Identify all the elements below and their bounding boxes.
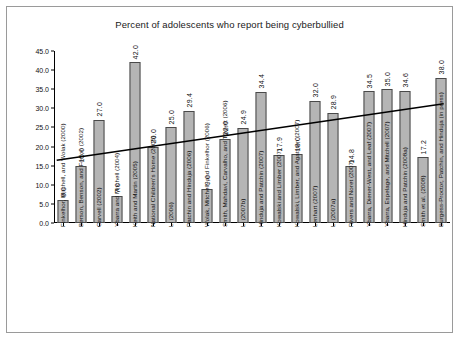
- bar-slot: 28.9: [324, 51, 342, 223]
- bar-value-label: 28.9: [330, 95, 337, 109]
- category-slot: Lenhart (2007): [306, 227, 324, 339]
- category-slot: Li (2007a): [324, 227, 342, 339]
- bar-slot: 25.0: [162, 51, 180, 223]
- category-slot: Hinduja and Patchin (2008a): [396, 227, 414, 339]
- x-axis-category-labels: Finkelhor, Mitchell, and Wolak (2000)Ber…: [54, 227, 450, 339]
- category-label: Hinduja and Patchin (2008a): [401, 147, 408, 227]
- category-slot: Patchin and Hinduja (2006): [180, 227, 198, 339]
- category-label: Carvell (2002): [95, 187, 102, 227]
- category-slot: Kowalski and Limber (2007): [270, 227, 288, 339]
- category-slot: Smith et al. (2008): [414, 227, 432, 339]
- category-label: Smith et al. (2008): [419, 175, 426, 227]
- bar-value-label: 34.4: [258, 74, 265, 88]
- category-slot: Carvell (2002): [90, 227, 108, 339]
- category-slot: Burgess-Proctor, Patchin, and Hinduja (i…: [432, 227, 450, 339]
- category-label: Smith, Mahdavi, Carvalho, and Tippett (2…: [221, 100, 228, 227]
- category-slot: Rivers and Noret (2007): [342, 227, 360, 339]
- category-slot: Li (2007b): [234, 227, 252, 339]
- category-slot: Ybarra, Espelage, and Mitchell (2007): [378, 227, 396, 339]
- category-label: Rivers and Noret (2007): [347, 160, 354, 227]
- category-label: Keith and Martin (2005): [131, 161, 138, 227]
- category-label: Hinduja and Patchin (2007): [257, 151, 264, 227]
- category-label: Li (2006): [167, 202, 174, 227]
- category-slot: National Children's Home (2005): [144, 227, 162, 339]
- category-label: Li (2007b): [239, 199, 246, 227]
- category-label: Kowalski and Limber (2007): [275, 149, 282, 227]
- bar-value-label: 29.4: [186, 93, 193, 107]
- category-slot: Ybarra, Diener-West, and Leaf (2007): [360, 227, 378, 339]
- bar-value-label: 25.0: [168, 110, 175, 124]
- category-slot: Wolak, Mitchell, and Finkelhor (2006): [198, 227, 216, 339]
- bar-value-label: 34.5: [366, 74, 373, 88]
- category-slot: Berson, Benson, and Ferron (2002): [72, 227, 90, 339]
- bar-value-label: 35.0: [384, 72, 391, 86]
- bar-value-label: 38.0: [438, 60, 445, 74]
- bar-slot: 24.9: [234, 51, 252, 223]
- category-label: Li (2007a): [329, 199, 336, 227]
- category-label: Lenhart (2007): [311, 186, 318, 227]
- bar-value-label: 17.2: [420, 140, 427, 154]
- category-label: Ybarra and Mitchell (2004): [113, 153, 120, 227]
- category-slot: Keith and Martin (2005): [126, 227, 144, 339]
- category-label: Kowalski, Limber, and Agatston (2007): [293, 120, 300, 227]
- category-slot: Kowalski, Limber, and Agatston (2007): [288, 227, 306, 339]
- bar-value-label: 42.0: [132, 45, 139, 59]
- bar-value-label: 34.6: [402, 73, 409, 87]
- category-label: Berson, Benson, and Ferron (2002): [77, 128, 84, 227]
- category-slot: Li (2006): [162, 227, 180, 339]
- bar-value-label: 32.0: [312, 83, 319, 97]
- category-slot: Ybarra and Mitchell (2004): [108, 227, 126, 339]
- chart-container: Percent of adolescents who report being …: [6, 6, 453, 333]
- bar-value-label: 27.0: [96, 102, 103, 116]
- category-label: Finkelhor, Mitchell, and Wolak (2000): [59, 123, 66, 227]
- category-label: Ybarra, Diener-West, and Leaf (2007): [365, 122, 372, 227]
- category-label: Ybarra, Espelage, and Mitchell (2007): [383, 121, 390, 227]
- category-slot: Smith, Mahdavi, Carvalho, and Tippett (2…: [216, 227, 234, 339]
- category-label: Wolak, Mitchell, and Finkelhor (2006): [203, 123, 210, 227]
- category-slot: Hinduja and Patchin (2007): [252, 227, 270, 339]
- chart-title: Percent of adolescents who report being …: [7, 19, 452, 30]
- category-slot: Finkelhor, Mitchell, and Wolak (2000): [54, 227, 72, 339]
- category-label: National Children's Home (2005): [149, 136, 156, 227]
- bar-value-label: 24.9: [240, 110, 247, 124]
- category-label: Patchin and Hinduja (2006): [185, 151, 192, 227]
- category-label: Burgess-Proctor, Patchin, and Hinduja (i…: [437, 92, 444, 227]
